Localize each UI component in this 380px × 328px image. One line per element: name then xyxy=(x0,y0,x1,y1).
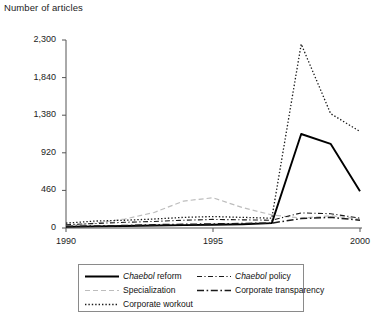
legend-label: Chaebol reform xyxy=(123,271,182,281)
chart-legend: Chaebol reformChaebol policySpecializati… xyxy=(78,264,304,312)
legend-line-swatch xyxy=(85,300,119,309)
y-axis-ticks xyxy=(62,40,66,228)
y-tick-label: 1,380 xyxy=(14,109,56,119)
x-tick-label: 2000 xyxy=(337,236,380,246)
legend-entry: Specialization xyxy=(85,285,197,295)
series-line-chaebol-reform xyxy=(66,134,360,227)
legend-line-swatch xyxy=(197,286,231,295)
legend-entry: Corporate workout xyxy=(85,299,197,309)
y-tick-label: 1,840 xyxy=(14,72,56,82)
chart-container: Number of articles 2,3001,8401,380920460… xyxy=(0,0,380,328)
y-tick-label: 0 xyxy=(14,222,56,232)
y-tick-label: 460 xyxy=(14,184,56,194)
series-line-chaebol-policy xyxy=(66,213,360,225)
legend-label: Corporate transparency xyxy=(235,285,324,295)
legend-label: Corporate workout xyxy=(123,299,193,309)
legend-line-swatch xyxy=(197,272,231,281)
legend-entry: Chaebol reform xyxy=(85,271,197,281)
series-line-corporate-workout xyxy=(66,44,360,223)
axis-lines xyxy=(66,40,362,228)
legend-line-swatch xyxy=(85,272,119,281)
series-line-specialization xyxy=(66,198,360,226)
x-tick-label: 1990 xyxy=(43,236,89,246)
legend-line-swatch xyxy=(85,286,119,295)
y-tick-label: 2,300 xyxy=(14,34,56,44)
legend-entry: Corporate transparency xyxy=(197,285,305,295)
legend-label: Chaebol policy xyxy=(235,271,291,281)
y-tick-label: 920 xyxy=(14,147,56,157)
x-axis-ticks xyxy=(66,228,360,232)
legend-entry: Chaebol policy xyxy=(197,271,305,281)
legend-label: Specialization xyxy=(123,285,175,295)
x-tick-label: 1995 xyxy=(190,236,236,246)
